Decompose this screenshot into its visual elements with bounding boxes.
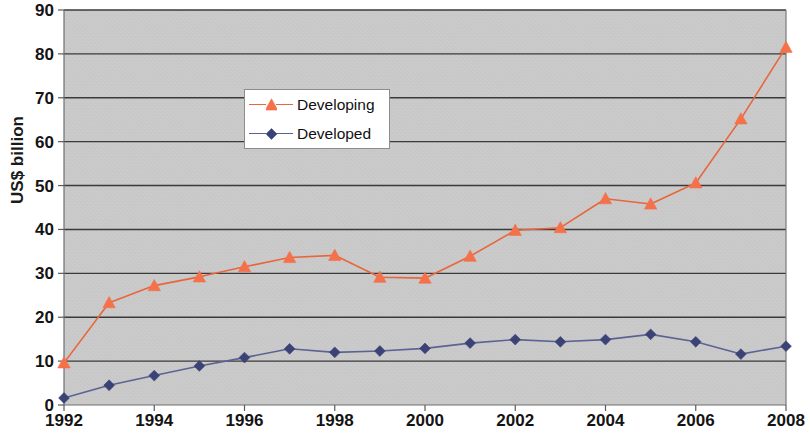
data-point-marker — [420, 343, 431, 354]
data-point-marker — [103, 297, 115, 308]
data-point-marker — [284, 343, 295, 354]
x-axis-tick-labels: 199219941996199820002002200420062008 — [0, 412, 802, 443]
x-tick-label: 2004 — [571, 412, 641, 431]
data-point-marker — [554, 221, 566, 232]
data-point-marker — [59, 393, 70, 404]
x-tick-label: 1994 — [119, 412, 189, 431]
data-point-marker — [465, 338, 476, 349]
x-tick-label: 1992 — [29, 412, 99, 431]
data-point-marker — [780, 41, 792, 52]
data-point-marker — [510, 334, 521, 345]
data-point-marker — [645, 329, 656, 340]
x-tick-label: 1998 — [300, 412, 370, 431]
data-point-marker — [735, 349, 746, 360]
y-tick-label: 80 — [2, 45, 54, 62]
y-tick-label: 90 — [2, 2, 54, 19]
data-point-marker — [329, 347, 340, 358]
x-tick-label: 2002 — [480, 412, 550, 431]
series-developing — [58, 41, 792, 368]
y-tick-label: 30 — [2, 265, 54, 282]
legend-key-triangle-icon — [245, 94, 297, 116]
legend-label-developed: Developed — [297, 126, 371, 142]
series-developed — [59, 329, 792, 403]
data-point-marker — [690, 336, 701, 347]
y-tick-label: 40 — [2, 221, 54, 238]
plot-area — [64, 10, 786, 405]
y-tick-label: 20 — [2, 309, 54, 326]
x-tick-label: 2006 — [661, 412, 731, 431]
y-axis-tick-labels: 0102030405060708090 — [0, 0, 54, 443]
x-tick-label: 2000 — [390, 412, 460, 431]
legend-key-diamond-icon — [245, 123, 297, 145]
legend-marker — [266, 99, 277, 110]
x-tick-label: 2008 — [751, 412, 810, 431]
data-point-marker — [374, 346, 385, 357]
legend-label-developing: Developing — [297, 97, 375, 113]
y-tick-label: 10 — [2, 353, 54, 370]
data-point-marker — [104, 380, 115, 391]
y-tick-label: 50 — [2, 177, 54, 194]
data-point-marker — [149, 370, 160, 381]
x-tick-label: 1996 — [210, 412, 280, 431]
legend-marker — [266, 129, 277, 140]
data-point-marker — [555, 336, 566, 347]
data-point-marker — [735, 113, 747, 124]
legend-item-developed: Developed — [245, 119, 391, 149]
y-tick-label: 70 — [2, 89, 54, 106]
data-point-marker — [600, 334, 611, 345]
legend-item-developing: Developing — [245, 90, 391, 120]
series-line — [64, 47, 786, 363]
plot-svg — [64, 10, 786, 405]
data-point-marker — [690, 177, 702, 188]
y-tick-label: 60 — [2, 133, 54, 150]
data-point-marker — [599, 193, 611, 204]
data-point-marker — [464, 250, 476, 261]
data-point-marker — [194, 361, 205, 372]
data-point-marker — [781, 341, 792, 352]
chart-legend: Developing Developed — [244, 89, 390, 149]
